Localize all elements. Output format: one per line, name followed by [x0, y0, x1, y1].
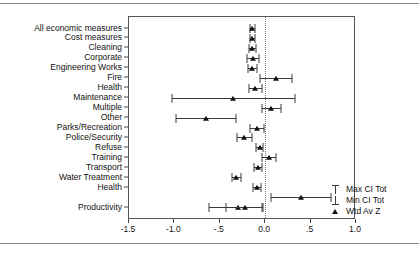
min-ci-cap [247, 64, 248, 73]
min-ci-cap [231, 173, 232, 182]
wtd-av-z-marker [298, 195, 304, 200]
wtd-av-z-marker [230, 95, 236, 100]
category-tick [124, 127, 128, 128]
category-label: Health [97, 83, 122, 92]
min-ci-cap [262, 153, 263, 162]
category-tick [124, 186, 128, 187]
value-tick-label: -1.5 [121, 224, 136, 234]
category-tick [124, 136, 128, 137]
category-tick [124, 87, 128, 88]
min-ci-cap [248, 84, 249, 93]
category-tick [124, 156, 128, 157]
value-tick-label: 0.0 [258, 224, 270, 234]
category-axis-labels: All economic measuresCost measuresCleani… [0, 0, 125, 258]
category-tick [124, 27, 128, 28]
category-label: Corporate [84, 53, 122, 62]
wtd-av-z-marker [233, 175, 239, 180]
wtd-av-z-marker [252, 85, 258, 90]
max-ci-cap [258, 54, 259, 63]
wtd-av-z-marker [203, 115, 209, 120]
legend-item-max-ci-tot: Max CI Tot [332, 184, 386, 195]
wtd-av-z-marker [249, 66, 255, 71]
category-tick [124, 176, 128, 177]
max-ci-cap [262, 163, 263, 172]
wtd-av-z-marker [249, 36, 255, 41]
wtd-av-z-marker [254, 185, 260, 190]
wtd-av-z-marker [257, 145, 263, 150]
max-ci-cap [264, 124, 265, 133]
category-label: Multiple [93, 103, 122, 112]
max-ci-cap [263, 203, 264, 212]
value-tick [173, 219, 174, 223]
min-ci-cap [226, 203, 227, 212]
category-label: Parks/Recreation [57, 123, 122, 132]
category-tick [124, 166, 128, 167]
category-label: Fire [107, 73, 122, 82]
value-tick-label: -1.0 [166, 224, 181, 234]
max-ci-cap [251, 133, 252, 142]
min-ci-cap [237, 133, 238, 142]
max-ci-cap [295, 94, 296, 103]
max-ci-cap [276, 153, 277, 162]
value-tick-label: -.5 [214, 224, 224, 234]
category-tick [124, 37, 128, 38]
max-ci-cap [263, 143, 264, 152]
category-label: Productivity [78, 202, 122, 211]
wtd-av-z-marker [249, 46, 255, 51]
max-ci-cap [236, 114, 237, 123]
category-tick [124, 47, 128, 48]
value-tick [355, 219, 356, 223]
legend-label: Wtd Av Z [346, 206, 380, 216]
value-tick [310, 219, 311, 223]
wtd-av-z-marker [242, 205, 248, 210]
wtd-av-z-marker [266, 155, 272, 160]
category-tick [124, 97, 128, 98]
legend-label: Min CI Tot [346, 195, 384, 205]
category-label: Health [97, 182, 122, 191]
category-label: Other [101, 113, 122, 122]
wtd-av-z-marker [254, 125, 260, 130]
legend-label: Max CI Tot [346, 184, 386, 194]
figure-container: All economic measuresCost measuresCleani… [0, 0, 419, 258]
value-tick-label: 1.0 [349, 224, 361, 234]
wtd-av-z-marker [273, 76, 279, 81]
value-tick [219, 219, 220, 223]
wtd-av-z-marker [250, 56, 256, 61]
category-label: Maintenance [73, 93, 122, 102]
category-label: All economic measures [34, 23, 122, 32]
category-label: Police/Security [66, 133, 122, 142]
min-ci-cap [176, 114, 177, 123]
wtd-av-z-marker [241, 135, 247, 140]
legend-item-min-ci-tot: Min CI Tot [332, 195, 386, 206]
max-ci-cap [330, 193, 331, 202]
category-label: Transport [86, 163, 122, 172]
category-tick [124, 117, 128, 118]
wtd-av-z-marker [268, 105, 274, 110]
category-label: Training [92, 153, 122, 162]
category-tick [124, 57, 128, 58]
category-tick [124, 67, 128, 68]
max-ci-cap [260, 183, 261, 192]
min-ci-cap [259, 74, 260, 83]
category-label: Refuse [95, 143, 122, 152]
category-label: Water Treatment [59, 173, 122, 182]
max-ci-cap [240, 173, 241, 182]
value-tick [128, 219, 129, 223]
plot-area [128, 16, 355, 219]
max-ci-cap [261, 84, 262, 93]
min-ci-cap [171, 94, 172, 103]
legend-item-wtd-av-z: Wtd Av Z [332, 206, 386, 217]
category-tick [124, 107, 128, 108]
triangle-icon [332, 209, 338, 214]
wtd-av-z-marker [249, 26, 255, 31]
min-ci-cap [270, 193, 271, 202]
wtd-av-z-marker [255, 165, 261, 170]
max-ci-icon [335, 185, 336, 194]
category-tick [124, 146, 128, 147]
value-tick-label: .5 [306, 224, 313, 234]
max-ci-cap [292, 74, 293, 83]
category-label: Cost measures [65, 33, 122, 42]
max-ci-cap [280, 104, 281, 113]
data-row [129, 202, 354, 213]
min-ci-cap [247, 54, 248, 63]
